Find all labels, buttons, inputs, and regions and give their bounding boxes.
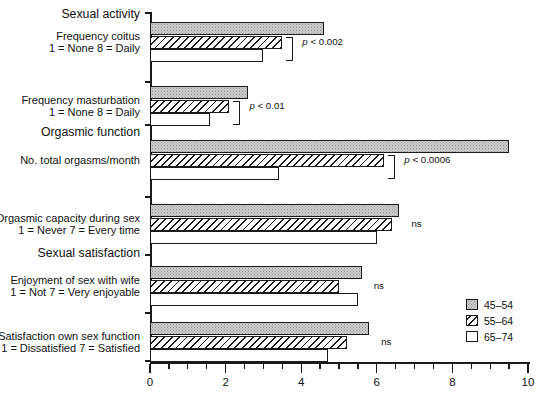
legend-label-45-54: 45–54 <box>484 299 513 311</box>
x-axis-tick-label: 8 <box>437 376 467 388</box>
category-label-line1: Frequency coitus <box>49 30 140 43</box>
bar-55-64-4 <box>150 218 392 231</box>
category-label-line2: 1 = None 8 = Daily <box>21 106 140 119</box>
bar-65-74-6 <box>150 349 328 362</box>
section-header: Orgasmic function <box>41 126 140 139</box>
significance-bracket <box>286 37 293 61</box>
category-label-line1: Frequency masturbation <box>21 94 140 107</box>
legend-label-65-74: 65–74 <box>484 331 513 343</box>
bar-65-74-5 <box>150 293 358 306</box>
legend-item-65-74: 65–74 <box>466 330 513 343</box>
x-axis-tick-minor <box>471 364 472 369</box>
significance-label: ns <box>381 336 391 347</box>
significance-bracket <box>233 101 240 125</box>
bar-55-64-3 <box>150 154 384 167</box>
significance-label: ns <box>374 280 384 291</box>
legend-swatch-65-74 <box>466 331 478 342</box>
category-label-line1: Orgasmic capacity during sex <box>0 212 140 225</box>
x-axis-tick-minor <box>168 364 169 369</box>
category-label: Enjoyment of sex with wife1 = Not 7 = Ve… <box>10 274 140 299</box>
category-label: Frequency coitus1 = None 8 = Daily <box>49 30 140 55</box>
x-axis-tick-minor <box>244 364 245 369</box>
bar-45-54-1 <box>150 22 324 35</box>
x-axis-tick-major <box>225 364 226 373</box>
x-axis-tick-minor <box>263 364 264 369</box>
category-label: Frequency masturbation1 = None 8 = Daily <box>21 94 140 119</box>
bar-55-64-1 <box>150 36 282 49</box>
bar-45-54-6 <box>150 322 369 335</box>
x-axis-tick-label: 4 <box>286 376 316 388</box>
x-axis-tick-minor <box>490 364 491 369</box>
x-axis-tick-label: 2 <box>211 376 241 388</box>
section-header: Sexual satisfaction <box>37 247 140 260</box>
legend-label-55-64: 55–64 <box>484 315 513 327</box>
x-axis-tick-label: 6 <box>362 376 392 388</box>
x-axis-tick-major <box>376 364 377 373</box>
bar-45-54-5 <box>150 266 362 279</box>
legend-item-45-54: 45–54 <box>466 298 513 311</box>
x-axis-tick-minor <box>357 364 358 369</box>
category-label-line2: 1 = None 8 = Daily <box>49 42 140 55</box>
y-axis-tick <box>145 81 151 83</box>
section-header: Sexual activity <box>61 8 140 21</box>
x-axis-tick-major <box>149 364 150 373</box>
bar-45-54-3 <box>150 140 509 153</box>
bar-55-64-5 <box>150 280 339 293</box>
bar-chart: Sexual activityOrgasmic functionSexual s… <box>0 0 542 404</box>
x-axis-tick-minor <box>282 364 283 369</box>
x-axis-tick-minor <box>319 364 320 369</box>
y-axis-tick <box>145 312 151 314</box>
x-axis-tick-minor <box>206 364 207 369</box>
bar-45-54-2 <box>150 86 248 99</box>
x-axis-tick-minor <box>395 364 396 369</box>
bar-65-74-2 <box>150 113 210 126</box>
significance-label: ns <box>411 218 421 229</box>
category-label-line1: No. total orgasms/month <box>20 154 140 167</box>
bar-45-54-4 <box>150 204 399 217</box>
x-axis-tick-minor <box>187 364 188 369</box>
category-label-line1: Enjoyment of sex with wife <box>10 274 140 287</box>
category-label: Satisfaction own sex function1 = Dissati… <box>0 330 140 355</box>
x-axis-tick-minor <box>414 364 415 369</box>
y-axis-tick <box>145 254 151 256</box>
significance-label: p < 0.002 <box>302 36 343 47</box>
x-axis-tick-major <box>452 364 453 373</box>
bar-65-74-1 <box>150 49 263 62</box>
x-axis-tick-label: 10 <box>513 376 542 388</box>
x-axis-tick-minor <box>338 364 339 369</box>
category-label-line2: 1 = Dissatisfied 7 = Satisfied <box>0 342 140 355</box>
bar-65-74-4 <box>150 231 377 244</box>
y-axis-tick <box>145 12 151 14</box>
legend: 45–5455–6465–74 <box>466 298 513 346</box>
category-label-line2: 1 = Not 7 = Very enjoyable <box>10 286 140 299</box>
y-axis-tick <box>145 196 151 198</box>
legend-swatch-55-64 <box>466 315 478 326</box>
x-axis-tick-minor <box>433 364 434 369</box>
category-label-line2: 1 = Never 7 = Every time <box>0 224 140 237</box>
legend-swatch-45-54 <box>466 299 478 310</box>
bar-55-64-6 <box>150 336 347 349</box>
significance-bracket <box>388 155 395 179</box>
category-label: No. total orgasms/month <box>20 154 140 167</box>
significance-label: p < 0.01 <box>249 100 284 111</box>
bar-55-64-2 <box>150 100 229 113</box>
x-axis-tick-minor <box>508 364 509 369</box>
significance-label: p < 0.0006 <box>404 154 450 165</box>
bar-65-74-3 <box>150 167 279 180</box>
category-label-line1: Satisfaction own sex function <box>0 330 140 343</box>
x-axis-tick-major <box>527 364 528 373</box>
x-axis-tick-label: 0 <box>135 376 165 388</box>
legend-item-55-64: 55–64 <box>466 314 513 327</box>
x-axis-tick-major <box>301 364 302 373</box>
category-label: Orgasmic capacity during sex1 = Never 7 … <box>0 212 140 237</box>
